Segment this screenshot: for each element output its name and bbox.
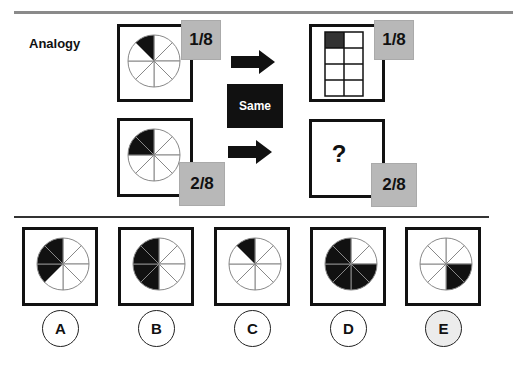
pie-chart-icon (323, 236, 379, 292)
fraction-badge: 2/8 (179, 162, 225, 206)
option-e-box[interactable] (405, 227, 481, 306)
top-divider (14, 11, 513, 14)
option-label: B (151, 320, 162, 337)
option-c-button[interactable]: C (234, 310, 271, 347)
grid-icon (324, 31, 364, 97)
option-c-box[interactable] (214, 227, 290, 306)
option-d-button[interactable]: D (330, 310, 367, 347)
pie-chart-icon (126, 127, 182, 183)
option-label: C (247, 320, 258, 337)
pie-chart-icon (35, 236, 91, 292)
option-label: E (438, 320, 448, 337)
option-label: D (343, 320, 354, 337)
arrow-right-icon (231, 50, 275, 74)
question-mark: ? (332, 140, 347, 168)
fraction-badge: 1/8 (374, 20, 414, 60)
option-a-box[interactable] (22, 227, 98, 306)
option-b-button[interactable]: B (138, 310, 175, 347)
pie-chart-icon (131, 236, 187, 292)
arrow-right-icon (228, 140, 272, 164)
pie-chart-icon (126, 33, 182, 89)
fraction-badge: 2/8 (371, 163, 417, 207)
pie-chart-icon (418, 236, 474, 292)
relation-label: Same (227, 84, 283, 128)
fraction-badge: 1/8 (181, 20, 221, 60)
option-d-box[interactable] (310, 227, 386, 306)
section-title: Analogy (29, 36, 80, 51)
option-e-button[interactable]: E (425, 310, 462, 347)
option-b-box[interactable] (118, 227, 194, 306)
middle-divider (14, 216, 489, 218)
pie-chart-icon (227, 236, 283, 292)
option-label: A (55, 320, 66, 337)
option-a-button[interactable]: A (42, 310, 79, 347)
